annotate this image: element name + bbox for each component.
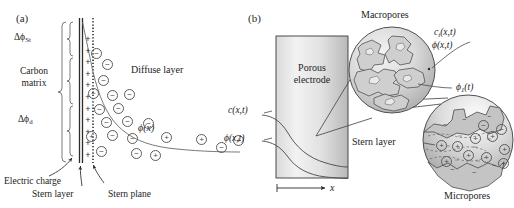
- brace-outer-carbon: [58, 22, 66, 162]
- label-delta-phi-d: Δϕd: [18, 114, 33, 127]
- ion-anion: −: [113, 103, 124, 114]
- ion-cation: +: [441, 156, 452, 167]
- ion-cation: +: [150, 150, 161, 161]
- ion-anion: −: [91, 48, 102, 59]
- label-phi1-t: ϕ1(t): [456, 82, 473, 95]
- brace-carbon-matrix: [67, 58, 73, 104]
- label-macropores: Macropores: [361, 9, 409, 20]
- ion-cation: +: [481, 152, 492, 163]
- leader-phi-xt-label: [264, 138, 272, 140]
- ion-anion: −: [102, 59, 113, 70]
- ion-anion: −: [124, 89, 135, 100]
- porous-electrode-block: [276, 36, 348, 178]
- svg-text:−: −: [443, 121, 447, 128]
- potential-curve-phi-x: [83, 22, 241, 152]
- delta-phi-st-subscript: St: [25, 36, 31, 43]
- delta-phi-d-subscript: d: [29, 118, 32, 125]
- ion-cation: +: [470, 133, 481, 144]
- ion-anion: −: [143, 118, 154, 129]
- arrow-stern-plane: [94, 165, 105, 183]
- label-electric-charge: Electric charge: [4, 176, 61, 187]
- svg-text:−: −: [472, 169, 476, 176]
- brace-delta-phi-d: [67, 106, 73, 156]
- label-c-xt: c(x,t): [228, 105, 248, 116]
- svg-text:−: −: [487, 113, 491, 120]
- label-phi-xt: ϕ(x,t): [432, 40, 452, 51]
- charge-plus: +: [83, 104, 93, 116]
- ion-anion: −: [122, 116, 133, 127]
- label-stern-layer-a: Stern layer: [32, 189, 73, 200]
- panel-a-artwork: [49, 18, 240, 186]
- macropore-anchor-dot: [428, 68, 430, 70]
- charge-plus: +: [83, 115, 93, 127]
- porous-electrode-line1: Porous: [298, 62, 326, 73]
- macropores-inset: [349, 27, 435, 113]
- leader-c-xt-label: [264, 111, 272, 113]
- label-carbon-matrix: Carbon matrix: [10, 66, 58, 89]
- ion-cation: +: [498, 158, 509, 169]
- delta-phi-st-symbol: Δϕ: [14, 32, 25, 42]
- label-diffuse-layer: Diffuse layer: [131, 64, 183, 75]
- ion-cation: +: [499, 144, 510, 155]
- ion-anion: −: [496, 124, 507, 135]
- ion-anion: −: [478, 120, 489, 131]
- arrow-electric-charge: [49, 158, 72, 176]
- ion-anion: −: [101, 117, 112, 128]
- ion-cation: +: [452, 141, 463, 152]
- svg-text:−: −: [492, 162, 496, 169]
- ion-anion: −: [127, 133, 138, 144]
- carbon-matrix-line2: matrix: [22, 78, 47, 88]
- arrow-stern-layer: [80, 166, 82, 186]
- label-stern-layer-b: Stern layer: [352, 136, 396, 147]
- panel-b-artwork: − − − − − −: [262, 27, 513, 192]
- ion-anion: −: [98, 75, 109, 86]
- ion-cation: +: [436, 140, 447, 151]
- carbon-matrix-line1: Carbon: [20, 66, 48, 76]
- ion-cation: +: [463, 150, 474, 161]
- label-stern-plane: Stern plane: [108, 189, 151, 200]
- delta-phi-d-symbol: Δϕ: [18, 114, 29, 124]
- charge-plus: +: [83, 57, 93, 69]
- ion-anion: −: [96, 146, 107, 157]
- ion-anion: −: [94, 104, 105, 115]
- ion-cation: +: [86, 131, 97, 142]
- ci-args: (x,t): [440, 27, 456, 37]
- ion-cation: +: [196, 134, 207, 145]
- figure-root: − − − − − −: [0, 0, 514, 208]
- svg-text:−: −: [450, 166, 454, 173]
- label-delta-phi-st: ΔϕSt: [14, 32, 31, 45]
- ion-anion: −: [131, 148, 142, 159]
- phi1-args: (t): [464, 82, 473, 92]
- label-porous-electrode: Porous electrode: [280, 62, 344, 85]
- charge-plus: +: [83, 34, 93, 46]
- label-ci-xt: ci(x,t): [434, 27, 456, 40]
- porous-electrode-line2: electrode: [294, 74, 331, 85]
- label-x-axis: x: [330, 182, 334, 193]
- label-micropores: Micropores: [444, 190, 490, 201]
- panel-a-label: (a): [16, 12, 28, 24]
- label-phi-xt-left: ϕ(x,t): [224, 133, 244, 144]
- brace-delta-phi-st: [67, 22, 73, 56]
- ion-cation: +: [161, 132, 172, 143]
- ion-anion: −: [107, 130, 118, 141]
- ion-anion: −: [107, 90, 118, 101]
- ion-anion: −: [88, 88, 99, 99]
- charge-plus: +: [83, 69, 93, 81]
- panel-b-label: (b): [248, 12, 261, 24]
- charge-plus: +: [83, 150, 93, 162]
- svg-text:−: −: [462, 116, 466, 123]
